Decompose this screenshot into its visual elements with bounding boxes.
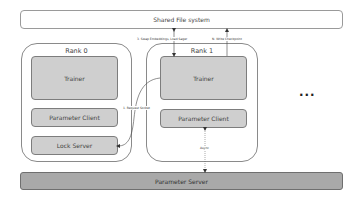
parameter-server: Parameter Server <box>20 172 343 190</box>
rank-0-trainer: Trainer <box>31 56 118 100</box>
rank-0-trainer-label: Trainer <box>64 75 85 82</box>
rank-1-parameter-client-label: Parameter Client <box>178 115 229 122</box>
swap-embeddings-label: 3. Swap Embeddings, Load Sager <box>137 37 187 41</box>
rank-0-title: Rank 0 <box>65 47 87 55</box>
async-label: Async <box>200 146 209 150</box>
shared-file-system-label: Shared File system <box>153 16 210 23</box>
rank-0-parameter-client: Parameter Client <box>31 108 118 127</box>
shared-file-system: Shared File system <box>20 10 343 29</box>
rank-1-parameter-client: Parameter Client <box>160 109 247 128</box>
request-socket-label: 1. Request Socket <box>123 106 150 110</box>
parameter-server-label: Parameter Server <box>155 178 208 185</box>
more-ranks-ellipsis: ... <box>299 89 316 95</box>
rank-1-trainer: Trainer <box>160 56 247 100</box>
rank-0-lock-server-label: Lock Server <box>57 142 92 149</box>
rank-1-trainer-label: Trainer <box>193 75 214 82</box>
rank-0-lock-server: Lock Server <box>31 136 118 155</box>
rank-0-parameter-client-label: Parameter Client <box>49 114 100 121</box>
write-checkpoint-label: N. Write Checkpoint <box>212 37 242 41</box>
rank-1-title: Rank 1 <box>191 47 213 55</box>
